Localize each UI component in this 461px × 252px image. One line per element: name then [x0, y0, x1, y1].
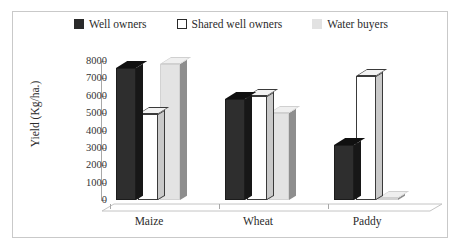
plot-area: Yield (Kg/ha.) 0100020003000400050006000…: [13, 12, 449, 239]
y-tick-row: 3000: [53, 143, 107, 153]
bar-side-face: [136, 64, 143, 200]
y-tick-row: 8000: [53, 56, 107, 66]
bar-paddy-well-owners: [334, 145, 354, 200]
bar-side-face: [267, 91, 274, 200]
y-tick-row: 2000: [53, 160, 107, 170]
y-tick-row: 1000: [53, 178, 107, 188]
bar-front-face: [334, 145, 354, 200]
bar-side-face: [180, 60, 187, 200]
bar-front-face: [378, 198, 398, 200]
bar-paddy-water-buyers: [378, 198, 398, 200]
x-axis-label-paddy: Paddy: [322, 215, 412, 227]
y-tick-row: 6000: [53, 91, 107, 101]
y-tick-row: 0: [53, 195, 107, 205]
x-tick-mark: [328, 204, 329, 209]
bar-front-face: [116, 68, 136, 200]
bar-wheat-well-owners: [225, 99, 245, 200]
bar-front-face: [225, 99, 245, 200]
y-tick-label: 2000: [67, 160, 107, 170]
y-tick-row: 4000: [53, 126, 107, 136]
x-tick-mark: [110, 204, 111, 209]
x-tick-mark: [219, 204, 220, 209]
y-tick-label: 5000: [67, 108, 107, 118]
bar-side-face: [289, 109, 296, 200]
y-tick-label: 6000: [67, 91, 107, 101]
bar-maize-well-owners: [116, 68, 136, 200]
y-tick-label: 4000: [67, 126, 107, 136]
chart-frame: Well owners Shared well owners Water buy…: [12, 11, 448, 238]
x-axis-label-maize: Maize: [104, 215, 194, 227]
y-tick-label: 8000: [67, 56, 107, 66]
y-tick-label: 3000: [67, 143, 107, 153]
y-tick-row: 7000: [53, 73, 107, 83]
y-tick-label: 1000: [67, 178, 107, 188]
bar-side-face: [158, 110, 165, 200]
y-tick-row: 5000: [53, 108, 107, 118]
bar-side-face: [245, 95, 252, 200]
y-tick-label: 7000: [67, 73, 107, 83]
bar-side-face: [354, 141, 361, 200]
y-tick-label: 0: [67, 195, 107, 205]
x-axis-label-wheat: Wheat: [213, 215, 303, 227]
y-axis-title: Yield (Kg/ha.): [29, 59, 41, 169]
bar-side-face: [376, 71, 383, 200]
